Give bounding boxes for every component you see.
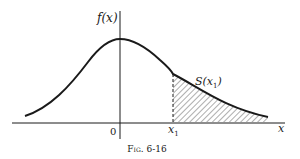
x-axis-label: x <box>278 122 285 135</box>
figure-canvas: f(x) x 0 x1 S(x1) Fig. 6-16 <box>0 0 300 159</box>
area-label: S(x1) <box>195 75 222 90</box>
density-curve <box>25 39 268 117</box>
y-axis-label: f(x) <box>96 11 118 25</box>
x1-label: x1 <box>168 123 179 138</box>
origin-label: 0 <box>110 126 116 137</box>
figure-caption: Fig. 6-16 <box>127 144 167 154</box>
